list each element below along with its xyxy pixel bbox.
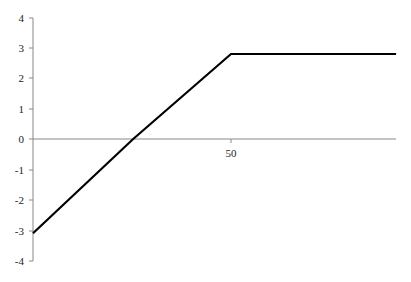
y-tick-label: -2 [15, 194, 24, 206]
y-tick-label: 4 [19, 12, 25, 24]
y-tick-label: -3 [15, 225, 25, 237]
y-tick-label: -1 [15, 164, 24, 176]
line-chart: 4 3 2 1 0 -1 -2 -3 -4 50 [0, 0, 411, 282]
y-tick-label: 0 [19, 133, 25, 145]
y-tick-label: -4 [15, 255, 25, 267]
payoff-line [33, 54, 396, 233]
y-axis-ticks [29, 18, 33, 261]
y-tick-label: 3 [19, 42, 25, 54]
y-tick-label: 2 [19, 72, 25, 84]
x-tick-label: 50 [226, 147, 238, 159]
y-tick-label: 1 [19, 103, 25, 115]
